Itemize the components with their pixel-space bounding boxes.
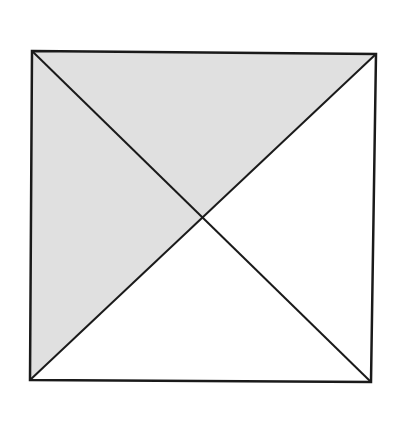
diagram-canvas [0, 0, 404, 426]
